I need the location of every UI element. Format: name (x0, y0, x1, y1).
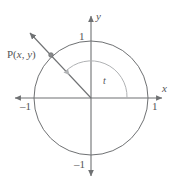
y-tick-negative-one: –1 (74, 159, 85, 170)
x-tick-positive-one: 1 (152, 101, 158, 112)
x-axis-label: x (162, 83, 167, 94)
point-p-marker (49, 53, 54, 58)
point-p-label: P(x, y) (7, 49, 36, 60)
angle-label-t: t (103, 76, 106, 86)
y-tick-positive-one: 1 (79, 31, 85, 42)
unit-circle-figure: y x 1 –1 1 –1 t P(x, y) (0, 0, 177, 188)
point-p-close: ) (32, 48, 36, 60)
terminal-ray (30, 33, 91, 98)
x-tick-negative-one: –1 (20, 101, 31, 112)
figure-canvas (0, 0, 177, 188)
point-p-name: P( (7, 48, 17, 60)
y-axis-label: y (96, 11, 101, 22)
